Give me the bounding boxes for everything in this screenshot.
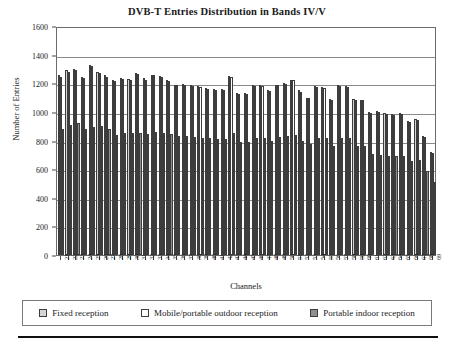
x-tick-label: 31 <box>140 254 147 260</box>
bar <box>155 132 157 255</box>
bar <box>271 141 273 256</box>
bar <box>349 138 351 255</box>
bar <box>217 139 219 255</box>
x-tick-label: 45 <box>249 254 256 260</box>
page-title: DVB-T Entries Distribution in Bands IV/V <box>0 6 454 17</box>
legend-item[interactable]: Mobile/portable outdoor reception <box>141 308 278 318</box>
bar <box>279 137 281 255</box>
channel-group <box>259 28 267 255</box>
y-tick-label: 200 <box>36 223 48 232</box>
bars-layer <box>57 28 435 255</box>
bar <box>295 135 297 255</box>
channel-group <box>204 28 212 255</box>
channel-group <box>313 28 321 255</box>
channel-group <box>274 28 282 255</box>
channel-group <box>344 28 352 255</box>
bar <box>326 138 328 255</box>
x-tick-label: 53 <box>311 254 318 260</box>
x-tick-label: 39 <box>202 254 209 260</box>
channel-group <box>166 28 174 255</box>
bar <box>85 129 87 255</box>
bar <box>170 134 172 255</box>
x-tick-label: 43 <box>233 254 240 260</box>
x-tick-label: 25 <box>94 254 101 260</box>
x-tick-label: 35 <box>171 254 178 260</box>
channel-group <box>429 28 437 255</box>
bar <box>341 138 343 255</box>
y-tick-label: 1000 <box>32 108 48 117</box>
bar <box>256 138 258 255</box>
bar <box>380 155 382 255</box>
x-tick-label: 48 <box>272 254 279 260</box>
channel-group <box>383 28 391 255</box>
channel-group <box>127 28 135 255</box>
channel-group <box>297 28 305 255</box>
channel-group <box>173 28 181 255</box>
chart-legend: Fixed receptionMobile/portable outdoor r… <box>22 300 432 326</box>
channel-group <box>73 28 81 255</box>
x-tick-label: 22 <box>71 254 78 260</box>
bar <box>70 125 72 255</box>
y-tick-label: 1400 <box>32 51 48 60</box>
channel-group <box>220 28 228 255</box>
legend-item[interactable]: Fixed reception <box>39 308 108 318</box>
channel-group <box>181 28 189 255</box>
bar <box>225 139 227 255</box>
legend-item[interactable]: Portable indoor reception <box>310 308 414 318</box>
y-axis-title: Number of Entries <box>11 49 21 169</box>
bar <box>93 127 95 255</box>
x-tick-label: 41 <box>218 254 225 260</box>
x-tick-label: 44 <box>241 254 248 260</box>
channel-group <box>359 28 367 255</box>
bar <box>124 133 126 255</box>
x-tick-label: 32 <box>148 254 155 260</box>
channel-group <box>135 28 143 255</box>
channel-group <box>367 28 375 255</box>
channel-group <box>212 28 220 255</box>
x-tick-label: 30 <box>133 254 140 260</box>
channel-group <box>228 28 236 255</box>
bar <box>411 161 413 255</box>
bar <box>186 136 188 255</box>
x-tick-label: 50 <box>288 254 295 260</box>
legend-swatch-icon <box>141 309 149 317</box>
x-tick-label: 64 <box>396 254 403 260</box>
channel-group <box>57 28 65 255</box>
bar <box>116 135 118 255</box>
x-tick-label: 37 <box>187 254 194 260</box>
x-tick-label: 23 <box>78 254 85 260</box>
x-tick-label: 58 <box>350 254 357 260</box>
bar <box>419 160 421 255</box>
channel-group <box>375 28 383 255</box>
x-axis-title: Channels <box>56 281 436 291</box>
bar <box>372 154 374 255</box>
channel-group <box>158 28 166 255</box>
bar <box>264 138 266 255</box>
legend-label: Fixed reception <box>52 308 108 318</box>
channel-group <box>398 28 406 255</box>
channel-group <box>321 28 329 255</box>
y-tick-label: 1200 <box>32 80 48 89</box>
x-tick-label: 21 <box>63 254 70 260</box>
channel-group <box>251 28 259 255</box>
bar <box>178 136 180 255</box>
bar <box>194 137 196 255</box>
channel-group <box>189 28 197 255</box>
y-tick-label: 600 <box>36 166 48 175</box>
x-tick-label: 33 <box>156 254 163 260</box>
legend-label: Mobile/portable outdoor reception <box>154 308 278 318</box>
channel-group <box>290 28 298 255</box>
channel-group <box>150 28 158 255</box>
bar <box>240 142 242 255</box>
x-tick-label: 57 <box>342 254 349 260</box>
bar <box>333 146 335 255</box>
channel-group <box>80 28 88 255</box>
bar <box>163 133 165 255</box>
bar <box>101 126 103 255</box>
bar <box>310 144 312 255</box>
legend-label: Portable indoor reception <box>323 308 414 318</box>
x-tick-label: 61 <box>373 254 380 260</box>
x-tick-label: 68 <box>427 254 434 260</box>
x-tick-label: 38 <box>195 254 202 260</box>
bar <box>364 146 366 255</box>
